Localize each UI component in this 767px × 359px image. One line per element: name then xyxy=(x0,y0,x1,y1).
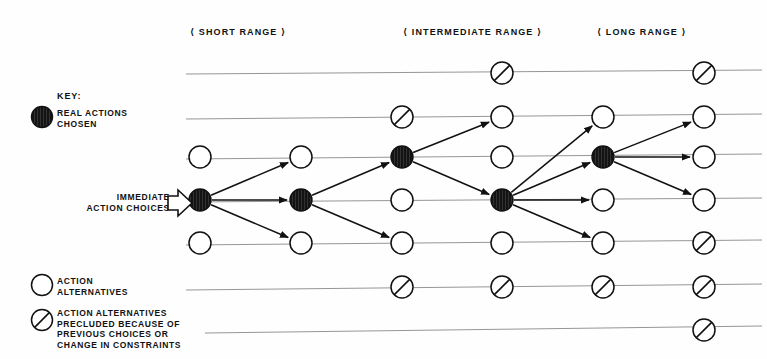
immediate-action-pointer-icon xyxy=(168,190,192,216)
choice-arrows xyxy=(211,122,691,237)
horizon-rule-2 xyxy=(186,114,762,119)
arrow-c5r3-to-c6r4 xyxy=(614,162,691,195)
diagram-svg xyxy=(0,0,767,359)
node-open-c3r5[interactable] xyxy=(391,232,413,254)
diagram-canvas: ⟨ SHORT RANGE ⟩ ⟨ INTERMEDIATE RANGE ⟩ ⟨… xyxy=(0,0,767,359)
node-filled-c3r3[interactable] xyxy=(391,146,413,168)
horizon-rule-7 xyxy=(205,326,762,333)
node-filled-c4r4[interactable] xyxy=(491,189,513,211)
node-open-c1r5[interactable] xyxy=(189,232,211,254)
arrow-c4r4-to-c5r5 xyxy=(513,205,590,238)
arrow-c2r4-to-c3r3 xyxy=(312,162,389,195)
node-filled-c5r3[interactable] xyxy=(592,146,614,168)
arrow-c4r4-to-c5r3 xyxy=(513,162,590,195)
arrow-c3r3-to-c4r2 xyxy=(413,122,489,152)
horizon-rule-6 xyxy=(186,284,762,290)
node-precluded-c3r2[interactable] xyxy=(391,106,413,128)
legend-symbol-open-node[interactable] xyxy=(32,275,53,296)
node-open-c4r3[interactable] xyxy=(491,146,513,168)
arrow-c4r4-to-c5r2 xyxy=(511,126,592,192)
legend-symbol-precluded-node[interactable] xyxy=(32,310,53,331)
node-open-c3r4[interactable] xyxy=(391,189,413,211)
node-open-c1r3[interactable] xyxy=(189,146,211,168)
node-open-c5r4[interactable] xyxy=(592,189,614,211)
node-open-c5r5[interactable] xyxy=(592,232,614,254)
node-open-c6r4[interactable] xyxy=(693,189,715,211)
node-precluded-c4r1[interactable] xyxy=(491,62,513,84)
node-open-c6r3[interactable] xyxy=(693,146,715,168)
node-open-c4r5[interactable] xyxy=(491,232,513,254)
node-precluded-c4r6[interactable] xyxy=(491,276,513,298)
legend-symbols xyxy=(32,107,193,331)
node-open-c2r5[interactable] xyxy=(290,232,312,254)
horizon-rule-5 xyxy=(186,240,762,245)
arrow-c1r4-to-c2r3 xyxy=(211,162,288,195)
legend-symbol-filled-node[interactable] xyxy=(32,107,53,128)
node-precluded-c6r1[interactable] xyxy=(693,62,715,84)
arrow-c5r3-to-c6r2 xyxy=(614,122,691,152)
arrow-c3r3-to-c4r4 xyxy=(413,162,489,195)
node-precluded-c6r7[interactable] xyxy=(693,319,715,341)
arrow-c1r4-to-c2r5 xyxy=(211,205,288,238)
node-open-c5r2[interactable] xyxy=(592,106,614,128)
node-open-c6r2[interactable] xyxy=(693,106,715,128)
node-precluded-c6r5[interactable] xyxy=(693,232,715,254)
node-open-c4r2[interactable] xyxy=(491,106,513,128)
arrow-c2r4-to-c3r5 xyxy=(312,205,389,238)
node-precluded-c5r6[interactable] xyxy=(592,276,614,298)
node-open-c2r3[interactable] xyxy=(290,146,312,168)
node-filled-c2r4[interactable] xyxy=(290,189,312,211)
node-filled-c1r4[interactable] xyxy=(189,189,211,211)
node-precluded-c3r6[interactable] xyxy=(391,276,413,298)
horizon-rule-1 xyxy=(186,70,762,74)
horizon-rule-lines xyxy=(186,70,762,333)
node-precluded-c6r6[interactable] xyxy=(693,276,715,298)
